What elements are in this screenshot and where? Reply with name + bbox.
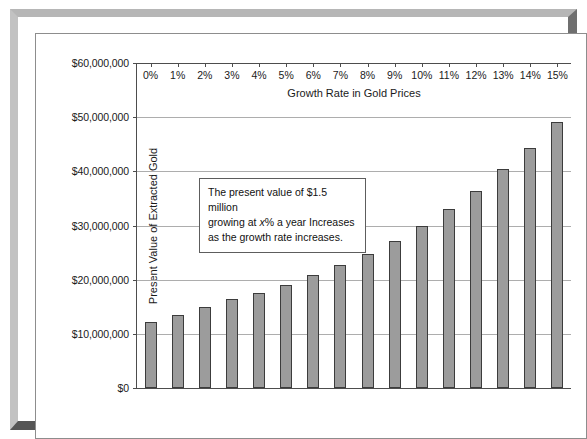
x-axis-tick-mark [422,63,423,67]
bar [416,226,428,388]
annotation-line-2-post: % a year Increases [265,216,355,228]
y-axis-tick-label: $30,000,000 [39,220,129,232]
bar [199,307,211,388]
bar [470,191,482,388]
x-axis-tick-mark [557,63,558,67]
x-axis-tick-label: 0% [143,69,158,81]
x-axis-tick-mark [340,63,341,67]
bar [551,122,563,389]
y-axis-tick-label: $60,000,000 [39,57,129,69]
y-axis-tick-label: $40,000,000 [39,165,129,177]
chart-canvas: Present Value of Extracted Gold $0$10,00… [36,34,586,438]
y-axis-tick-mark [133,388,137,389]
x-axis-tick-mark [232,63,233,67]
x-axis-tick-mark [368,63,369,67]
bar [389,241,401,388]
bar [226,299,238,388]
bar [443,209,455,388]
x-axis-tick-label: 14% [520,69,541,81]
annotation-line-2-pre: growing at [208,216,259,228]
x-axis-tick-mark [205,63,206,67]
bar [334,265,346,388]
annotation-line-1: The present value of $1.5 million [208,186,327,213]
x-axis-tick-mark [476,63,477,67]
plot-area: Present Value of Extracted Gold $0$10,00… [136,63,571,389]
x-axis-tick-mark [503,63,504,67]
x-axis-tick-label: 6% [306,69,321,81]
x-axis-tick-mark [286,63,287,67]
x-axis-tick-label: 8% [360,69,375,81]
bar [172,315,184,388]
bar [307,275,319,388]
bar [145,322,157,388]
bar [497,169,509,388]
x-axis-tick-label: 15% [547,69,568,81]
x-axis-tick-label: 12% [466,69,487,81]
x-axis-tick-label: 4% [251,69,266,81]
x-axis-tick-label: 3% [224,69,239,81]
figure-frame: Present Value of Extracted Gold $0$10,00… [10,9,577,430]
annotation-callout: The present value of $1.5 million growin… [199,178,366,253]
y-axis-tick-label: $0 [39,382,129,394]
x-axis-title: Growth Rate in Gold Prices [137,87,571,99]
x-axis-tick-mark [178,63,179,67]
bar [524,148,536,388]
x-axis-tick-label: 5% [279,69,294,81]
x-axis-tick-label: 2% [197,69,212,81]
x-axis-tick-mark [259,63,260,67]
x-axis-tick-label: 7% [333,69,348,81]
y-axis-tick-label: $50,000,000 [39,111,129,123]
chart-figure: Present Value of Extracted Gold $0$10,00… [0,0,587,439]
bar [253,293,265,388]
x-axis-tick-mark [530,63,531,67]
bar [280,285,292,388]
x-axis-tick-label: 13% [493,69,514,81]
x-axis-tick-mark [313,63,314,67]
x-axis-tick-label: 10% [411,69,432,81]
x-axis-tick-mark [395,63,396,67]
annotation-line-3: as the growth rate increases. [208,231,343,243]
x-axis-tick-label: 1% [170,69,185,81]
x-axis-tick-label: 11% [439,69,459,81]
x-axis-tick-mark [151,63,152,67]
bar [362,254,374,388]
x-axis-tick-label: 9% [387,69,402,81]
x-axis-tick-mark [449,63,450,67]
y-axis-tick-label: $10,000,000 [39,328,129,340]
y-axis-tick-label: $20,000,000 [39,274,129,286]
